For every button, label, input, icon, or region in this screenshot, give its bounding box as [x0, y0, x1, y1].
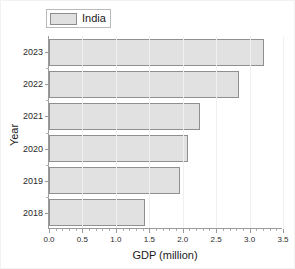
plot-area: 0.00.51.01.52.02.53.03.52023202220212020…	[48, 36, 282, 229]
bar-2020	[49, 135, 188, 162]
x-tick-minor	[163, 229, 164, 231]
y-tick	[45, 84, 49, 85]
x-gridline	[116, 36, 117, 228]
x-gridline	[183, 36, 184, 228]
y-tick-minor	[46, 100, 49, 101]
x-tick-label: 1.5	[144, 235, 155, 244]
x-tick	[116, 229, 117, 233]
x-tick-minor	[230, 229, 231, 231]
x-gridline	[216, 36, 217, 228]
bar-2018	[49, 199, 145, 226]
x-tick-label: 3.5	[277, 235, 288, 244]
x-tick-minor	[276, 229, 277, 231]
x-tick-minor	[243, 229, 244, 231]
x-gridline	[82, 36, 83, 228]
x-tick-minor	[209, 229, 210, 231]
x-tick-minor	[270, 229, 271, 231]
bar-row	[49, 71, 283, 98]
bar-row	[49, 39, 283, 66]
y-tick	[45, 181, 49, 182]
bar-2019	[49, 167, 180, 194]
x-tick	[49, 229, 50, 233]
legend-label-india: India	[82, 13, 106, 24]
x-tick-label: 0.5	[77, 235, 88, 244]
bar-row	[49, 103, 283, 130]
x-tick-minor	[176, 229, 177, 231]
y-tick-label: 2023	[23, 47, 43, 57]
x-tick-minor	[123, 229, 124, 231]
x-tick-minor	[129, 229, 130, 231]
x-tick-minor	[89, 229, 90, 231]
x-tick-minor	[256, 229, 257, 231]
x-tick-label: 1.0	[110, 235, 121, 244]
x-tick-minor	[96, 229, 97, 231]
x-tick-minor	[203, 229, 204, 231]
y-tick	[45, 52, 49, 53]
x-tick-minor	[56, 229, 57, 231]
x-tick-minor	[62, 229, 63, 231]
x-tick-minor	[189, 229, 190, 231]
x-tick	[82, 229, 83, 233]
x-tick	[283, 229, 284, 233]
x-tick	[250, 229, 251, 233]
x-tick-minor	[76, 229, 77, 231]
chart-legend: India	[46, 9, 111, 28]
y-tick	[45, 116, 49, 117]
x-tick-label: 2.0	[177, 235, 188, 244]
x-gridline	[250, 36, 251, 228]
x-tick	[149, 229, 150, 233]
x-tick-minor	[69, 229, 70, 231]
x-tick-minor	[196, 229, 197, 231]
x-tick-minor	[136, 229, 137, 231]
x-tick-minor	[169, 229, 170, 231]
bar-2023	[49, 39, 264, 66]
y-axis-title: Year	[8, 123, 20, 145]
y-tick-label: 2021	[23, 111, 43, 121]
legend-swatch-india	[50, 13, 77, 25]
y-tick-label: 2022	[23, 79, 43, 89]
y-tick	[45, 213, 49, 214]
bar-row	[49, 135, 283, 162]
bar-2022	[49, 71, 239, 98]
y-tick-label: 2019	[23, 176, 43, 186]
y-tick-label: 2020	[23, 144, 43, 154]
y-tick	[45, 149, 49, 150]
x-tick	[216, 229, 217, 233]
y-tick-minor	[46, 133, 49, 134]
x-tick-label: 0.0	[43, 235, 54, 244]
y-tick-label: 2018	[23, 208, 43, 218]
x-tick-label: 3.0	[244, 235, 255, 244]
x-tick-label: 2.5	[211, 235, 222, 244]
x-tick-minor	[102, 229, 103, 231]
x-tick-minor	[223, 229, 224, 231]
bar-2021	[49, 103, 200, 130]
chart-figure: India 0.00.51.01.52.02.53.03.52023202220…	[0, 0, 295, 269]
x-tick	[183, 229, 184, 233]
x-gridline	[283, 36, 284, 228]
y-tick-minor	[46, 68, 49, 69]
x-tick-minor	[143, 229, 144, 231]
x-tick-minor	[236, 229, 237, 231]
x-tick-minor	[156, 229, 157, 231]
x-gridline	[149, 36, 150, 228]
x-tick-minor	[263, 229, 264, 231]
bar-row	[49, 167, 283, 194]
bar-row	[49, 199, 283, 226]
y-tick-minor	[46, 165, 49, 166]
x-axis-title: GDP (million)	[48, 249, 282, 261]
bar-series-india	[49, 36, 282, 228]
x-tick-minor	[109, 229, 110, 231]
y-tick-minor	[46, 197, 49, 198]
